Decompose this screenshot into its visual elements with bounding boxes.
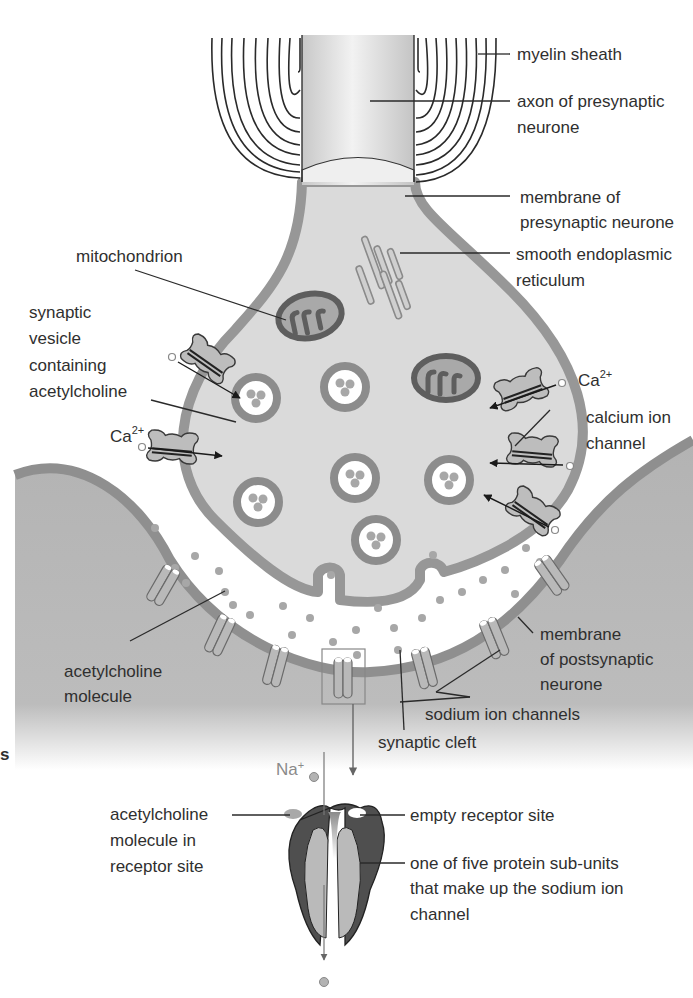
label-membrane-presynaptic: membrane of [520,188,620,207]
label-synaptic-cleft: synaptic cleft [378,733,477,752]
label-myelin-sheath: myelin sheath [517,45,622,64]
label-membrane-postsynaptic: neurone [540,675,602,694]
enlarged-sodium-channel [284,752,384,987]
synaptic-vesicle [334,457,376,499]
label-smooth-er: smooth endoplasmic [516,245,672,264]
label-ach-in-site: molecule in [110,831,196,850]
synaptic-vesicle [324,366,366,408]
label-mitochondrion: mitochondrion [76,247,183,266]
label-empty-receptor-site: empty receptor site [410,806,555,825]
label-protein-subunit: that make up the sodium ion [410,879,624,898]
label-axon: axon of presynaptic [517,92,665,111]
label-membrane-postsynaptic: of postsynaptic [540,650,654,669]
label-protein-subunit: channel [410,905,470,924]
label-synaptic-vesicle: acetylcholine [29,382,127,401]
mitochondrion-2 [414,356,478,400]
label-axon: neurone [517,118,579,137]
synaptic-vesicle [235,377,277,419]
label-ca-right: Ca2+ [578,368,612,390]
label-ach-in-site: acetylcholine [110,805,208,824]
label-membrane-postsynaptic: membrane [540,625,621,644]
label-calcium-channel: channel [586,434,646,453]
label-ca-left: Ca2+ [110,424,144,446]
label-calcium-channel: calcium ion [586,408,671,427]
label-synaptic-vesicle: containing [29,356,107,375]
label-smooth-er: reticulum [516,271,585,290]
label-ach-molecule: acetylcholine [64,662,162,681]
myelin-sheath-left [212,38,300,178]
label-synaptic-vesicle: synaptic [29,303,92,322]
label-membrane-presynaptic: presynaptic neurone [520,213,674,232]
edge-fragment: s [0,745,9,764]
label-protein-subunit: one of five protein sub-units [410,854,619,873]
label-sodium-channels: sodium ion channels [425,705,580,724]
synaptic-vesicle [237,481,279,523]
synaptic-vesicle [428,459,470,501]
synaptic-vesicle [355,519,397,561]
myelin-sheath-right [416,38,496,182]
label-ach-in-site: receptor site [110,857,204,876]
label-na-ion: Na+ [276,759,304,779]
label-synaptic-vesicle: vesicle [29,329,81,348]
label-ach-molecule: molecule [64,687,132,706]
synapse-diagram: myelin sheath axon of presynaptic neuron… [0,0,693,998]
